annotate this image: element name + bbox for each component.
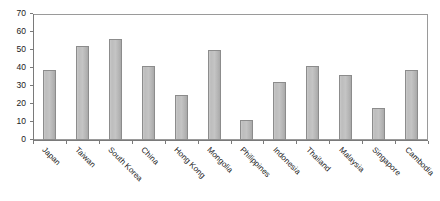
y-axis-tick-label: 70 — [17, 9, 26, 18]
x-axis-tick — [263, 141, 264, 144]
x-axis-tick — [395, 141, 396, 144]
x-axis-tick-label: Japan — [41, 146, 62, 167]
bar — [109, 39, 122, 140]
bar — [273, 82, 286, 140]
y-axis-tick-label: 10 — [17, 117, 26, 126]
bar — [339, 75, 352, 140]
bar-chart: 010203040506070 JapanTaiwanSouth KoreaCh… — [0, 0, 440, 201]
bar — [208, 50, 221, 140]
x-axis-tick — [132, 141, 133, 144]
x-axis-tick-label: Mongolia — [205, 146, 234, 175]
x-axis-tick — [99, 141, 100, 144]
y-axis-tick-label: 20 — [17, 99, 26, 108]
x-axis-tick-label: Malaysia — [337, 146, 365, 174]
bar — [175, 95, 188, 140]
x-axis-tick-label: South Korea — [107, 146, 144, 183]
bar — [405, 70, 418, 140]
bar — [372, 108, 385, 140]
x-axis-tick-label: Taiwan — [74, 146, 97, 169]
bar — [43, 70, 56, 140]
y-axis-tick-label: 60 — [17, 27, 26, 36]
bar — [240, 120, 253, 140]
x-axis-tick — [231, 141, 232, 144]
x-axis-tick — [66, 141, 67, 144]
bar — [76, 46, 89, 140]
x-axis-tick — [296, 141, 297, 144]
bar — [306, 66, 319, 140]
x-axis-tick-label: China — [140, 146, 160, 166]
y-axis-tick-label: 0 — [21, 135, 26, 144]
bars-layer — [33, 14, 428, 140]
x-axis-tick-label: Hong Kong — [172, 146, 206, 180]
x-axis-tick — [198, 141, 199, 144]
y-axis-tick-label: 40 — [17, 63, 26, 72]
x-axis-tick-label: Indonesia — [271, 146, 301, 176]
x-axis-tick-label: Singapore — [370, 146, 401, 177]
y-axis-tick-label: 50 — [17, 45, 26, 54]
x-axis-tick-label: Thailand — [304, 146, 331, 173]
x-axis — [33, 140, 428, 141]
x-axis-tick — [33, 141, 34, 144]
x-axis-tick — [329, 141, 330, 144]
x-axis-tick — [165, 141, 166, 144]
x-axis-tick-label: Philippines — [238, 146, 271, 179]
x-axis-tick — [362, 141, 363, 144]
x-axis-tick-label: Cambodia — [403, 146, 434, 177]
x-axis-tick — [428, 141, 429, 144]
y-axis-tick-label: 30 — [17, 81, 26, 90]
bar — [142, 66, 155, 140]
